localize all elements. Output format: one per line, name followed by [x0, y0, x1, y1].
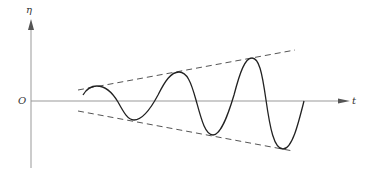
- horizontal-axis-arrow-icon: [338, 99, 350, 104]
- vertical-axis: [28, 19, 34, 168]
- horizontal-axis: [31, 99, 350, 104]
- lower-envelope: [78, 111, 293, 151]
- oscillation-curve: [83, 58, 304, 149]
- oscillation-diagram: [0, 0, 371, 173]
- upper-envelope: [78, 50, 295, 90]
- origin-label: O: [18, 96, 26, 106]
- horizontal-axis-label: t: [352, 96, 356, 106]
- vertical-axis-arrow-icon: [28, 19, 34, 30]
- vertical-axis-label: η: [26, 5, 32, 15]
